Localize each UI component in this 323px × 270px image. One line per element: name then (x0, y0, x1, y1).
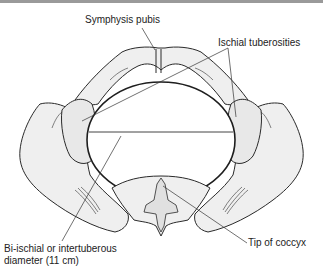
label-ischial-tuberosities: Ischial tuberosities (218, 37, 300, 49)
label-intertuberous-diameter: Bi-ischial or intertuberous diameter (11… (4, 243, 134, 267)
label-symphysis-pubis: Symphysis pubis (85, 14, 160, 26)
label-diameter-line1: Bi-ischial or intertuberous (4, 243, 134, 255)
label-diameter-line2: diameter (11 cm) (4, 255, 134, 267)
label-tip-of-coccyx: Tip of coccyx (248, 237, 306, 249)
